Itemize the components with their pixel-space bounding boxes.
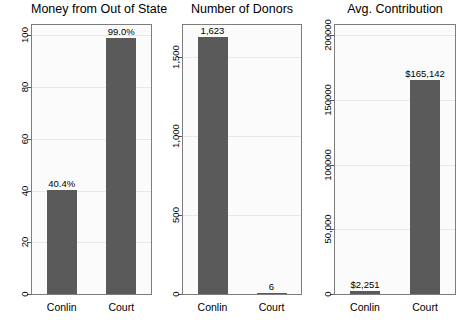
y-tick-label: 150000: [323, 100, 333, 132]
y-tick-label: 0: [323, 294, 333, 299]
plot-frame: [334, 24, 456, 295]
bar-value-label: $165,142: [405, 68, 445, 79]
y-tick-label: 200000: [323, 35, 333, 67]
y-tick-label-text: 150000: [323, 84, 333, 116]
figure-three-panel-bar-chart: Money from Out of State40.4%99.0%0204060…: [0, 0, 465, 321]
x-axis-label-court: Court: [412, 301, 438, 313]
bar-court: [410, 80, 440, 294]
y-tick-label-text: 50,000: [323, 215, 333, 244]
y-tick-label: 50,000: [323, 229, 333, 258]
y-tick-label-text: 0: [323, 291, 333, 296]
plot-area: [335, 25, 455, 294]
y-tick-label-text: 200000: [323, 19, 333, 51]
panel-title: Avg. Contribution: [334, 2, 456, 17]
gridline: [335, 35, 455, 36]
bar-conlin: [350, 291, 380, 294]
x-axis-label-conlin: Conlin: [350, 301, 380, 313]
y-tick-label: 100000: [323, 165, 333, 197]
y-tick-label-text: 100000: [323, 149, 333, 181]
bar-value-label: $2,251: [350, 279, 379, 290]
panel-3: Avg. Contribution$2,251$165,142050,00010…: [0, 0, 465, 321]
